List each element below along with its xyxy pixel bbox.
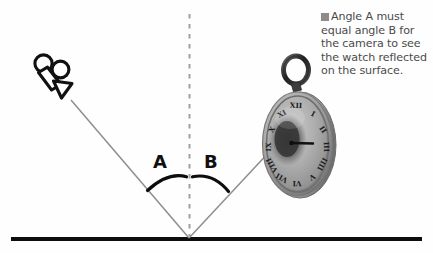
incident-ray [71,100,189,238]
square-bullet-icon [321,13,329,21]
angle-arc-b [193,176,229,191]
angle-arc-a [148,176,187,191]
watch-hand [291,143,313,144]
angle-label-b: B [204,151,218,172]
svg-text:VI: VI [292,179,303,188]
caption-block: Angle A must equal angle B for the camer… [321,10,427,78]
svg-text:III: III [322,142,331,153]
watch-hand-pivot [289,141,293,145]
watch-bail-icon [284,56,309,92]
watch-glass-highlight [275,107,305,129]
reflected-ray [189,157,265,238]
angle-label-a: A [153,151,167,172]
caption-text: Angle A must equal angle B for the camer… [321,10,427,77]
movie-camera-icon [35,55,72,98]
svg-text:IX: IX [264,142,273,151]
reflection-diagram-figure: XII I II III IIII V VI VII VIII IX X XI … [0,0,433,253]
